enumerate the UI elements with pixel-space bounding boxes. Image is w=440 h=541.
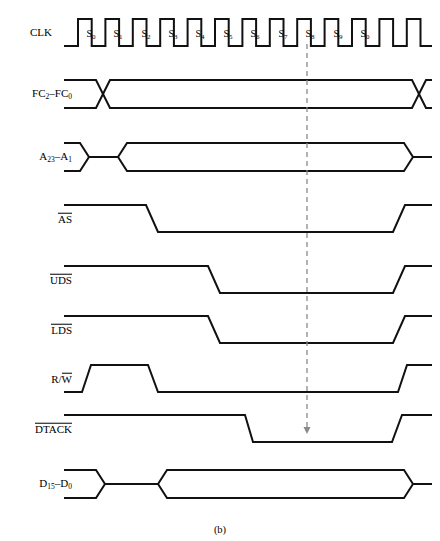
signal-label-a23-a1: A23–A1 [0, 151, 72, 163]
clock-state-label: S2 [141, 28, 150, 39]
DTACK-waveform [64, 415, 432, 442]
reference-marker-arrowhead [304, 427, 311, 434]
clock-state-label: S0 [360, 28, 369, 39]
R/W-waveform [64, 365, 432, 392]
clock-state-label: S7 [278, 28, 287, 39]
signal-label-clk: CLK [0, 27, 52, 39]
FC2-FC0-rail-lower [64, 80, 432, 108]
figure-caption: (b) [0, 524, 440, 535]
clock-state-label: S4 [195, 28, 204, 39]
clock-state-label: S1 [113, 28, 122, 39]
clock-state-label: S3 [168, 28, 177, 39]
D15-D0-rail-lower [64, 484, 413, 498]
signal-label-dtack: DTACK [0, 422, 72, 435]
signal-label-uds: UDS [0, 273, 72, 286]
clock-state-label: S0 [86, 28, 95, 39]
D15-D0-rail-upper [64, 470, 432, 484]
FC2-FC0-rail-upper [64, 80, 432, 108]
timing-diagram-figure: CLKFC2–FC0A23–A1ASUDSLDSR/WDTACKD15–D0 S… [0, 0, 440, 541]
A23-A1-rail-upper [64, 143, 432, 157]
signal-label-as: AS [0, 212, 72, 225]
clock-state-label: S8 [305, 28, 314, 39]
clock-state-label: S6 [250, 28, 259, 39]
AS-waveform [64, 205, 432, 232]
A23-A1-rail-lower [64, 157, 413, 171]
clock-state-label: S5 [223, 28, 232, 39]
signal-label-d15-d0: D15–D0 [0, 478, 72, 490]
LDS-waveform [64, 316, 432, 343]
UDS-waveform [64, 266, 432, 293]
waveform-canvas [0, 0, 440, 541]
signal-label-lds: LDS [0, 323, 72, 336]
clock-state-label: S9 [333, 28, 342, 39]
signal-label-fc2-fc0: FC2–FC0 [0, 88, 72, 100]
signal-label-r-w: R/W [0, 372, 72, 385]
